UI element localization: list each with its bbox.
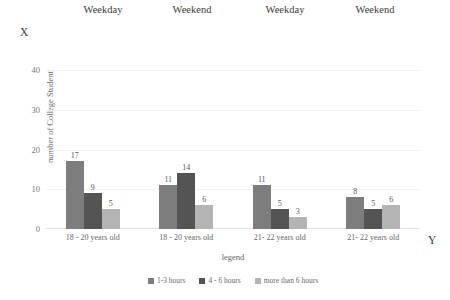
legend-swatch-1: [199, 278, 205, 284]
legend-label-0: 1-3 hours: [157, 276, 186, 285]
bar-2-1[interactable]: 5: [271, 209, 289, 229]
bar-value-label-2-0: 11: [258, 175, 266, 185]
legend-swatch-0: [148, 278, 154, 284]
x-tick-label-1: 18 - 20 years old: [159, 233, 213, 242]
bar-value-label-1-0: 11: [164, 175, 172, 185]
bar-value-label-1-2: 6: [202, 195, 206, 205]
bar-value-label-1-1: 14: [182, 163, 190, 173]
bar-2-0[interactable]: 11: [253, 185, 271, 229]
bar-value-label-3-2: 6: [389, 195, 393, 205]
x-tick-label-3: 21- 22 years old: [347, 233, 399, 242]
y-tick-label-30: 30: [26, 105, 40, 115]
y-axis-title: number of College Student: [45, 37, 55, 197]
plot-area: number of College Student 01020304017951…: [46, 70, 420, 229]
bar-value-label-3-1: 5: [371, 199, 375, 209]
bar-value-label-0-2: 5: [109, 199, 113, 209]
chart-legend: 1-3 hours4 - 6 hoursmore than 6 hours: [46, 276, 420, 285]
bar-1-2[interactable]: 6: [195, 205, 213, 229]
bar-group-2: 115321- 22 years old: [253, 70, 307, 229]
bar-2-2[interactable]: 3: [289, 217, 307, 229]
legend-entry-1[interactable]: 4 - 6 hours: [199, 276, 240, 285]
bar-group-0: 179518 - 20 years old: [66, 70, 120, 229]
legend-entry-0[interactable]: 1-3 hours: [148, 276, 186, 285]
bar-0-1[interactable]: 9: [84, 193, 102, 229]
y-tick-label-0: 0: [26, 224, 40, 234]
bar-3-1[interactable]: 5: [364, 209, 382, 229]
bar-chart: number of College Student 01020304017951…: [0, 0, 450, 300]
bar-0-2[interactable]: 5: [102, 209, 120, 229]
legend-label-1: 4 - 6 hours: [208, 276, 240, 285]
bar-group-1: 1114618 - 20 years old: [159, 70, 213, 229]
bar-1-1[interactable]: 14: [177, 173, 195, 229]
legend-entry-2[interactable]: more than 6 hours: [255, 276, 318, 285]
bar-0-0[interactable]: 17: [66, 161, 84, 229]
x-tick-label-0: 18 - 20 years old: [66, 233, 120, 242]
y-tick-label-40: 40: [26, 65, 40, 75]
bar-value-label-2-2: 3: [296, 207, 300, 217]
bar-value-label-0-1: 9: [91, 183, 95, 193]
bar-group-3: 85621- 22 years old: [346, 70, 400, 229]
legend-swatch-2: [255, 278, 261, 284]
legend-label-2: more than 6 hours: [264, 276, 318, 285]
bar-3-2[interactable]: 6: [382, 205, 400, 229]
x-axis-title: legend: [46, 252, 420, 262]
x-tick-label-2: 21- 22 years old: [254, 233, 306, 242]
bar-value-label-2-1: 5: [278, 199, 282, 209]
y-tick-label-10: 10: [26, 184, 40, 194]
bar-3-0[interactable]: 8: [346, 197, 364, 229]
y-tick-label-20: 20: [26, 145, 40, 155]
bar-value-label-0-0: 17: [71, 151, 79, 161]
bar-value-label-3-0: 8: [353, 187, 357, 197]
bar-1-0[interactable]: 11: [159, 185, 177, 229]
